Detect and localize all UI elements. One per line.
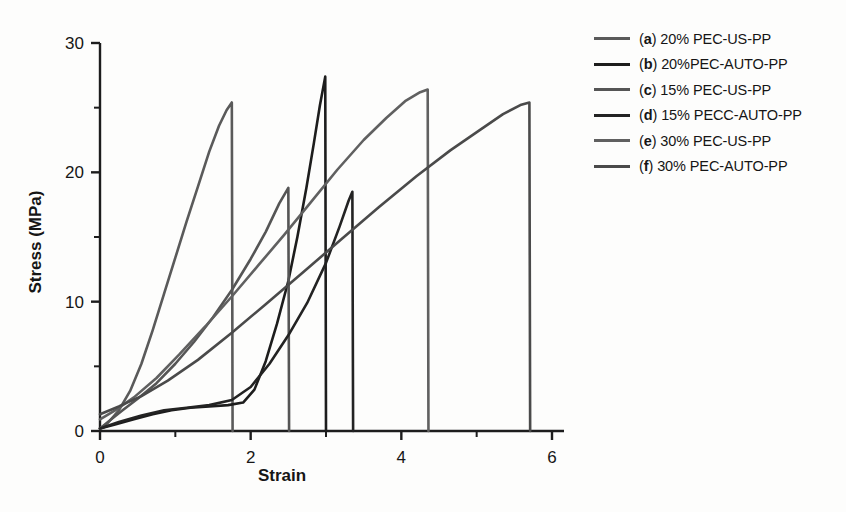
x-axis-label: Strain — [258, 466, 306, 486]
legend-item-d[interactable]: (d) 15% PECC-AUTO-PP — [594, 103, 840, 129]
legend-item-c[interactable]: (c) 15% PEC-US-PP — [594, 77, 840, 103]
legend-swatch-d — [594, 114, 630, 117]
curve-b — [100, 77, 326, 431]
axes — [91, 43, 564, 440]
legend-swatch-b — [594, 63, 630, 66]
y-tick-label: 0 — [75, 422, 84, 441]
y-tick-label: 20 — [65, 163, 84, 182]
legend-swatch-e — [594, 139, 630, 142]
curve-e — [100, 90, 428, 431]
legend-item-a[interactable]: (a) 20% PEC-US-PP — [594, 26, 840, 52]
y-tick-label: 10 — [65, 293, 84, 312]
legend-swatch-f — [594, 165, 630, 168]
legend-item-e[interactable]: (e) 30% PEC-US-PP — [594, 128, 840, 154]
y-tick-label: 30 — [65, 34, 84, 53]
legend: (a) 20% PEC-US-PP(b) 20%PEC-AUTO-PP(c) 1… — [594, 26, 840, 179]
legend-label-b: (b) 20%PEC-AUTO-PP — [639, 56, 788, 72]
legend-swatch-a — [594, 37, 630, 40]
legend-swatch-c — [594, 88, 630, 91]
x-tick-label: 0 — [95, 448, 104, 467]
x-tick-label: 6 — [547, 448, 556, 467]
legend-item-b[interactable]: (b) 20%PEC-AUTO-PP — [594, 52, 840, 78]
curves — [100, 77, 530, 431]
legend-label-e: (e) 30% PEC-US-PP — [639, 133, 771, 149]
y-axis-label: Stress (MPa) — [26, 162, 46, 322]
x-tick-label: 4 — [397, 448, 406, 467]
legend-label-d: (d) 15% PECC-AUTO-PP — [639, 107, 802, 123]
stress-strain-figure: 02460102030 Strain Stress (MPa) (a) 20% … — [0, 0, 846, 512]
legend-item-f[interactable]: (f) 30% PEC-AUTO-PP — [594, 154, 840, 180]
tick-labels: 02460102030 — [65, 34, 557, 467]
legend-label-f: (f) 30% PEC-AUTO-PP — [639, 158, 788, 174]
curve-f — [100, 102, 530, 431]
legend-label-a: (a) 20% PEC-US-PP — [639, 31, 771, 47]
legend-label-c: (c) 15% PEC-US-PP — [639, 82, 771, 98]
x-tick-label: 2 — [246, 448, 255, 467]
